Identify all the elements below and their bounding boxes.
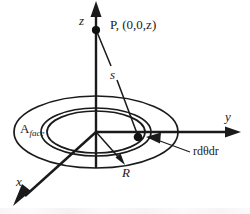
face-area-subscript: face bbox=[29, 128, 44, 138]
y-axis-arrowhead bbox=[225, 127, 241, 138]
x-axis-label: x bbox=[16, 175, 22, 188]
field-point-dot bbox=[92, 26, 100, 34]
area-element-dot bbox=[134, 133, 143, 142]
diagram-canvas bbox=[0, 0, 250, 214]
face-area-label: Aface bbox=[20, 122, 44, 135]
face-area-symbol: A bbox=[20, 121, 29, 136]
x-axis-line bbox=[25, 132, 96, 196]
radius-label: R bbox=[122, 166, 130, 179]
s-segment-upper bbox=[97, 32, 111, 66]
area-element-label: rdθdr bbox=[193, 145, 219, 157]
field-point-label: P, (0,0,z) bbox=[110, 18, 156, 31]
z-axis-arrowhead bbox=[91, 1, 102, 17]
s-segment-lower bbox=[117, 80, 138, 136]
distance-s-label: s bbox=[110, 68, 115, 81]
area-element-arrowhead bbox=[146, 133, 161, 144]
y-axis-label: y bbox=[225, 110, 231, 123]
disk-geometry-diagram: z P, (0,0,z) s y x R rdθdr Aface bbox=[0, 0, 250, 214]
z-axis-label: z bbox=[79, 14, 84, 27]
